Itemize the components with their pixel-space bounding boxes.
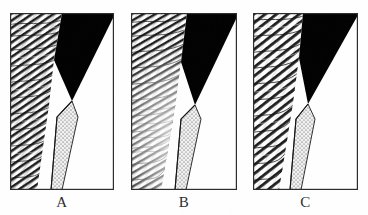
panel-c bbox=[253, 13, 358, 190]
panel-c-label: C bbox=[253, 192, 358, 212]
panel-c-graphic bbox=[253, 13, 358, 190]
panel-b-graphic bbox=[131, 13, 237, 190]
panel-b bbox=[131, 13, 237, 190]
panel-a bbox=[10, 13, 114, 190]
panel-a-graphic bbox=[10, 13, 114, 190]
figure-root: A bbox=[0, 0, 368, 215]
panel-b-label: B bbox=[131, 192, 237, 212]
panel-a-label: A bbox=[10, 192, 114, 212]
